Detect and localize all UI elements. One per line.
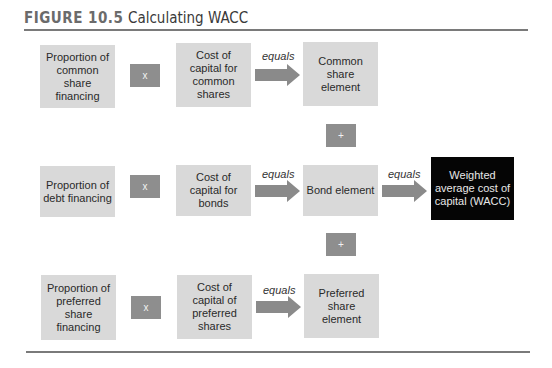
arrow-right-icon [382,180,427,202]
proportion-common-box: Proportion of common share financing [40,45,115,108]
equals-label: equals [388,168,420,180]
equals-label: equals [263,284,295,296]
bottom-rule [26,351,530,353]
top-rule [24,29,528,31]
bond-element-box: Bond element [303,165,378,216]
cost-bonds-box: Cost of capital for bonds [176,165,251,216]
cost-preferred-box: Cost of capital of preferred shares [177,275,252,339]
common-share-element-box: Common share element [303,42,378,106]
equals-label: equals [262,50,294,62]
cost-common-box: Cost of capital for common shares [176,43,251,107]
plus-operator: + [326,124,356,147]
equals-label: equals [262,168,294,180]
figure-number: FIGURE 10.5 [24,9,123,27]
plus-operator: + [326,233,356,256]
arrow-right-icon [255,180,300,202]
figure-title: Calculating WACC [128,9,248,27]
preferred-share-element-box: Preferred share element [304,274,379,338]
multiply-operator: x [130,64,160,87]
proportion-debt-box: Proportion of debt financing [40,166,115,217]
arrow-right-icon [255,64,300,86]
multiply-operator: x [130,175,160,198]
wacc-result-box: Weighted average cost of capital (WACC) [431,157,514,220]
multiply-operator: x [131,296,161,319]
arrow-right-icon [256,296,301,318]
proportion-preferred-box: Proportion of preferred share financing [41,275,116,340]
